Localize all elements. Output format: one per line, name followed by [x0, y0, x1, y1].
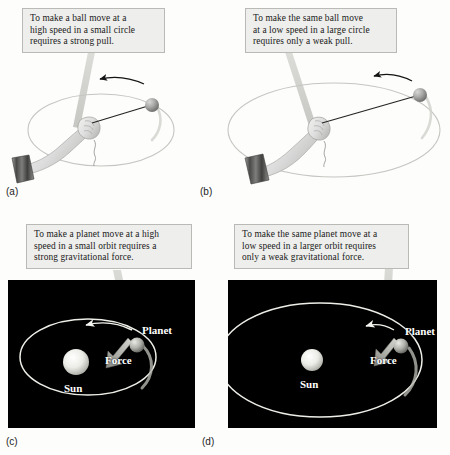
callout-line: at a low speed in a large circle: [253, 25, 390, 37]
string-a: [92, 106, 148, 123]
callout-line: high speed in a small circle: [30, 25, 158, 37]
ball-motion-trail-a: [152, 107, 160, 140]
planet-label-c: Planet: [142, 324, 172, 336]
ball-circular-path-b: [228, 83, 440, 177]
physics-figure: To make a ball move at a high speed in a…: [0, 0, 450, 455]
space-scene-panel-c: Planet Force Sun: [8, 280, 195, 428]
ball-circular-path-a: [28, 94, 174, 166]
callout-leader-a: [73, 52, 95, 128]
sleeve-cuff-a: [12, 155, 34, 183]
callout-line: low speed in a larger orbit requires: [242, 241, 402, 253]
callout-panel-a: To make a ball move at a high speed in a…: [22, 8, 165, 53]
callout-line: requires only a weak pull.: [253, 36, 390, 48]
callout-line: To make the same planet move at a: [242, 229, 402, 241]
motion-direction-arrow-c: [86, 323, 132, 330]
callout-panel-c: To make a planet move at a high speed in…: [26, 224, 192, 269]
callout-line: requires a strong pull.: [30, 36, 158, 48]
force-label-c: Force: [105, 354, 132, 366]
sleeve-cuff-b: [245, 154, 269, 184]
panel-letter-d: (d): [202, 436, 214, 447]
motion-direction-arrow-b: [374, 74, 412, 81]
sun-label-d: Sun: [300, 378, 318, 390]
planet-motion-trail-d: [405, 348, 416, 395]
callout-leader-b: [285, 52, 317, 129]
callout-line: To make the same ball move: [253, 13, 390, 25]
ball-a: [145, 98, 159, 112]
panel-c-scene: [8, 280, 195, 428]
panel-letter-b: (b): [200, 186, 212, 197]
panel-b-artwork: [228, 52, 440, 184]
planet-motion-trail-c: [142, 346, 152, 388]
forearm-b: [254, 126, 322, 178]
callout-line: strong gravitational force.: [34, 252, 185, 264]
callout-line: speed in a small orbit requires a: [34, 241, 185, 253]
motion-direction-arrow-a: [100, 77, 144, 84]
planet-label-d: Planet: [405, 325, 435, 337]
loose-string-a: [94, 140, 96, 166]
callout-line: To make a planet move at a high: [34, 229, 185, 241]
sun-label-c: Sun: [64, 382, 82, 394]
fist-a: [78, 117, 100, 139]
panel-a-artwork: [12, 52, 174, 183]
planet-c: [130, 338, 145, 353]
string-b: [322, 96, 416, 123]
motion-direction-arrow-d: [366, 325, 394, 330]
fist-b: [308, 117, 330, 140]
callout-line: only a weak gravitational force.: [242, 252, 402, 264]
panel-letter-a: (a): [6, 186, 18, 197]
panel-d-scene: [228, 280, 437, 428]
sun-c: [63, 349, 89, 375]
planet-d: [394, 339, 409, 354]
forearm-a: [21, 124, 92, 175]
callout-line: To make a ball move at a: [30, 13, 158, 25]
callout-panel-b: To make the same ball move at a low spee…: [245, 8, 397, 53]
callout-panel-d: To make the same planet move at a low sp…: [234, 224, 409, 269]
sun-d: [301, 349, 323, 371]
ball-motion-trail-b: [422, 97, 431, 138]
space-scene-panel-d: Planet Force Sun: [228, 280, 437, 428]
loose-string-b: [324, 141, 326, 167]
ball-b: [413, 88, 427, 102]
panel-letter-c: (c): [6, 436, 18, 447]
force-label-d: Force: [370, 354, 397, 366]
